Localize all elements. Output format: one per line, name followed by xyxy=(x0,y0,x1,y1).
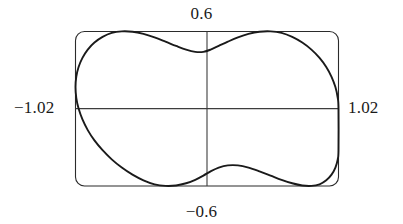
axis-label-top-text: 0.6 xyxy=(191,4,213,23)
axis-label-left-text: −1.02 xyxy=(14,98,54,117)
axis-label-right: 1.02 xyxy=(348,98,379,117)
axis-label-bottom-text: −0.6 xyxy=(186,202,218,221)
axis-label-bottom: −0.6 xyxy=(0,202,403,221)
plot-canvas xyxy=(0,0,403,224)
axis-label-left: −1.02 xyxy=(14,98,54,117)
axis-label-right-text: 1.02 xyxy=(348,98,379,117)
axis-label-top: 0.6 xyxy=(0,4,403,23)
plot-figure: 0.6 −0.6 −1.02 1.02 xyxy=(0,0,403,224)
